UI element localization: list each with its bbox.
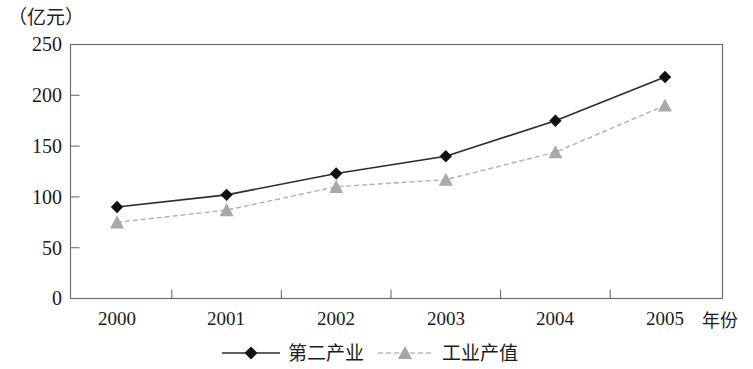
y-tick-label-250: 250 bbox=[32, 33, 62, 55]
diamond-icon bbox=[245, 347, 258, 360]
data-point-diamond bbox=[220, 189, 232, 201]
series-industrial-output-markers bbox=[110, 98, 672, 228]
series-secondary-industry bbox=[111, 71, 671, 213]
x-tick-label-2004: 2004 bbox=[536, 308, 575, 329]
x-tick-label-2005: 2005 bbox=[646, 308, 684, 329]
y-tick-label-0: 0 bbox=[52, 287, 62, 309]
y-tick-label-200: 200 bbox=[32, 84, 62, 106]
data-point-triangle bbox=[658, 98, 672, 111]
chart-legend: 第二产业 工业产值 bbox=[222, 343, 518, 364]
y-tick-label-50: 50 bbox=[42, 237, 62, 259]
x-axis-ticks bbox=[172, 290, 610, 299]
data-point-diamond bbox=[549, 115, 561, 127]
y-tick-label-100: 100 bbox=[32, 186, 62, 208]
legend-item-secondary-industry: 第二产业 bbox=[222, 343, 364, 364]
data-point-diamond bbox=[659, 71, 671, 83]
x-axis-name: 年份 bbox=[702, 311, 738, 331]
x-tick-label-2002: 2002 bbox=[317, 308, 355, 329]
data-point-triangle bbox=[548, 145, 562, 158]
x-axis-tick-labels: 2000 2001 2002 2003 2004 2005 bbox=[98, 308, 684, 329]
y-axis-ticks bbox=[71, 95, 80, 247]
plot-frame bbox=[71, 45, 723, 299]
data-point-diamond bbox=[111, 201, 123, 213]
line-chart: （亿元） 250 200 150 100 50 0 bbox=[0, 0, 753, 369]
series-secondary-industry-line bbox=[117, 77, 665, 207]
chart-canvas: 250 200 150 100 50 0 2000 2001 2002 2003… bbox=[0, 0, 753, 369]
x-tick-label-2003: 2003 bbox=[427, 308, 465, 329]
plot-border bbox=[71, 45, 723, 299]
series-industrial-output bbox=[110, 98, 672, 228]
data-point-triangle bbox=[439, 173, 453, 186]
x-tick-label-2000: 2000 bbox=[98, 308, 136, 329]
x-tick-label-2001: 2001 bbox=[207, 308, 245, 329]
data-point-diamond bbox=[330, 167, 342, 179]
y-axis-tick-labels: 250 200 150 100 50 0 bbox=[32, 33, 62, 309]
series-secondary-industry-markers bbox=[111, 71, 671, 213]
y-tick-label-150: 150 bbox=[32, 135, 62, 157]
legend-label-secondary-industry: 第二产业 bbox=[288, 343, 364, 364]
data-point-diamond bbox=[440, 150, 452, 162]
triangle-icon bbox=[398, 346, 412, 359]
legend-item-industrial-output: 工业产值 bbox=[378, 343, 518, 364]
series-industrial-output-line bbox=[117, 105, 665, 222]
legend-label-industrial-output: 工业产值 bbox=[442, 343, 518, 364]
